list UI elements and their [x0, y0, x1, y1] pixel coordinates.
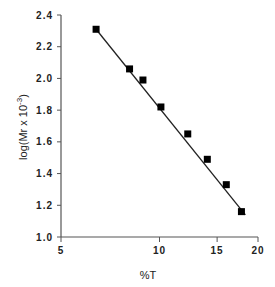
y-tick-label: 1.8 — [36, 105, 53, 116]
y-axis-title: log(Mr x 10-3) — [15, 94, 29, 160]
y-tick-label: 2.4 — [36, 10, 53, 21]
data-point-marker — [126, 65, 133, 72]
x-tick-label: 20 — [251, 245, 264, 256]
y-tick-label: 2.0 — [36, 73, 53, 84]
data-point-marker — [139, 77, 146, 84]
x-axis-title: %T — [140, 269, 157, 281]
data-point-marker — [238, 208, 245, 215]
y-tick-label: 1.4 — [36, 168, 53, 179]
data-point-marker — [204, 156, 211, 163]
data-point-marker — [184, 130, 191, 137]
y-tick-label: 1.0 — [36, 232, 53, 243]
data-point-marker — [157, 103, 164, 110]
data-point-marker — [93, 26, 100, 33]
x-tick-label: 10 — [153, 245, 166, 256]
x-tick-label: 15 — [211, 245, 224, 256]
data-point-marker — [223, 181, 230, 188]
x-tick-label: 5 — [58, 245, 65, 256]
y-axis: 1.01.21.41.61.82.02.22.4 — [36, 10, 61, 243]
x-axis: 5101520 — [58, 237, 265, 256]
y-tick-label: 1.6 — [36, 136, 53, 147]
chart: 1.01.21.41.61.82.02.22.4 5101520 %T log(… — [0, 0, 275, 287]
y-tick-label: 2.2 — [36, 41, 53, 52]
y-tick-label: 1.2 — [36, 200, 53, 211]
